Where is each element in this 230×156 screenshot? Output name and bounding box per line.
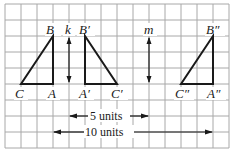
label-c: C	[15, 86, 24, 101]
label-c-prime: C′	[111, 86, 123, 101]
line-k-arrow-icon	[67, 37, 72, 83]
label-b-prime: B′	[79, 22, 90, 37]
label-k: k	[65, 22, 71, 37]
reflection-diagram: B k B′ m B″ C A A′ C′ C″ A″ 5 units 10 u…	[0, 0, 230, 156]
label-a: A	[47, 86, 56, 101]
ten-units-label: 10 units	[85, 125, 124, 139]
five-units-label: 5 units	[90, 109, 123, 123]
label-c-double-prime: C″	[175, 86, 190, 101]
label-b: B	[46, 22, 54, 37]
label-m: m	[144, 22, 153, 37]
label-a-prime: A′	[78, 86, 90, 101]
label-a-double-prime: A″	[206, 86, 221, 101]
line-m-arrow-icon	[147, 37, 152, 83]
label-b-double-prime: B″	[206, 22, 220, 37]
